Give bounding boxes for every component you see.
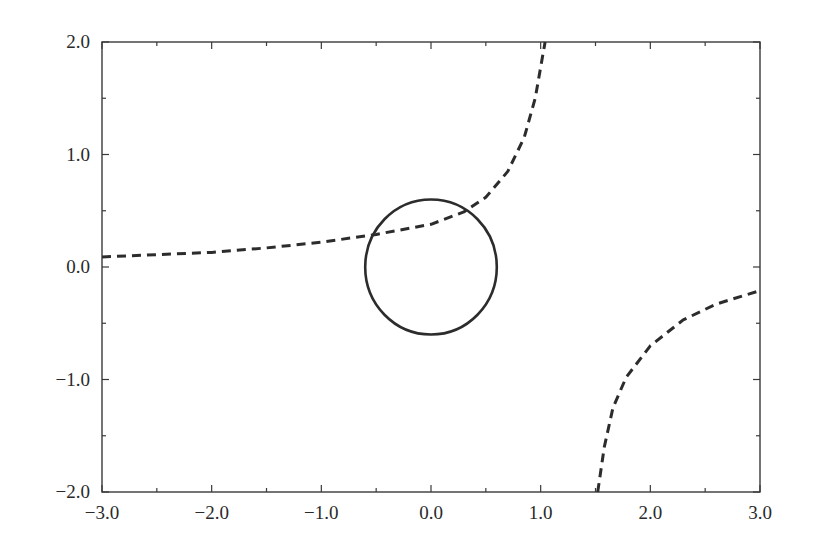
plot-frame <box>102 42 760 492</box>
x-axis-ticks: −3.0−2.0−1.00.01.02.03.0 <box>85 42 772 523</box>
dashed-curve-upper-branch <box>102 42 545 257</box>
x-tick-label: −1.0 <box>304 502 338 523</box>
y-tick-label: 1.0 <box>66 144 90 165</box>
y-tick-label: −1.0 <box>56 369 90 390</box>
x-tick-label: 0.0 <box>419 502 443 523</box>
y-tick-label: 0.0 <box>66 256 90 277</box>
data-series <box>102 42 760 492</box>
x-tick-label: −2.0 <box>194 502 228 523</box>
x-tick-label: 3.0 <box>748 502 772 523</box>
y-tick-label: 2.0 <box>66 31 90 52</box>
y-axis-ticks: −2.0−1.00.01.02.0 <box>56 31 760 502</box>
y-tick-label: −2.0 <box>56 481 90 502</box>
x-tick-label: −3.0 <box>85 502 119 523</box>
dashed-curve-lower-branch <box>598 291 760 492</box>
x-tick-label: 2.0 <box>638 502 662 523</box>
chart: −3.0−2.0−1.00.01.02.03.0 −2.0−1.00.01.02… <box>0 0 817 553</box>
x-tick-label: 1.0 <box>529 502 553 523</box>
plot-area: −3.0−2.0−1.00.01.02.03.0 −2.0−1.00.01.02… <box>56 31 772 523</box>
circle-curve <box>365 200 497 335</box>
